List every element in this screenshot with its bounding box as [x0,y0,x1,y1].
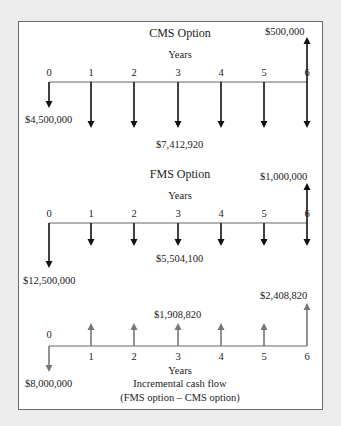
axis-label: Years [168,49,191,60]
year-label: 5 [261,67,266,78]
year-label: 4 [218,351,224,362]
amount-label: $1,000,000 [260,171,307,182]
arrow-up-icon [261,323,268,330]
arrow-down-icon [175,121,182,128]
amount-label: $4,500,000 [25,114,72,125]
year-label: 2 [131,351,136,362]
arrow-down-icon [88,239,95,246]
year-label: 5 [261,208,266,219]
amount-label: $12,500,000 [23,275,76,286]
arrow-up-icon [304,37,311,44]
arrow-up-icon [131,323,138,330]
amount-label: $8,000,000 [25,378,72,389]
amount-label: $500,000 [265,26,304,37]
year-label: 3 [175,351,180,362]
arrow-down-icon [304,121,311,128]
fms-diagram: 0123456FMS OptionYears$12,500,000$5,504,… [23,167,311,286]
amount-label: $5,504,100 [156,253,203,264]
arrow-up-icon [304,303,311,310]
cms-diagram: 0123456CMS OptionYears$4,500,000$7,412,9… [25,26,311,150]
amount-label: $2,408,820 [260,290,307,301]
arrow-down-icon [218,121,225,128]
arrow-down-icon [131,239,138,246]
diagram-subtitle: (FMS option – CMS option) [120,392,240,404]
amount-label: $1,908,820 [154,309,201,320]
axis-label: Years [168,190,191,201]
year-label: 4 [218,67,224,78]
year-label: 6 [304,351,309,362]
diagram-title: CMS Option [149,26,211,40]
year-label: 0 [46,67,51,78]
year-label: 0 [46,208,51,219]
year-label: 2 [131,67,136,78]
year-label: 3 [175,67,180,78]
arrow-up-icon [218,323,225,330]
year-label: 0 [46,329,51,340]
cash-flow-diagrams: 0123456CMS OptionYears$4,500,000$7,412,9… [0,0,341,426]
arrow-down-icon [304,239,311,246]
arrow-up-icon [304,183,311,190]
year-label: 1 [88,351,93,362]
diagram-title: Incremental cash flow [133,378,227,389]
incremental-diagram: 0123456YearsIncremental cash flow(FMS op… [25,290,311,404]
axis-label: Years [168,365,191,376]
year-label: 5 [261,351,266,362]
arrow-down-icon [88,121,95,128]
year-label: 2 [131,208,136,219]
year-label: 3 [175,208,180,219]
diagram-title: FMS Option [150,167,210,181]
arrow-down-icon [218,239,225,246]
arrow-up-icon [175,323,182,330]
year-label: 1 [88,67,93,78]
amount-label: $7,412,920 [156,139,203,150]
arrow-down-icon [175,239,182,246]
year-label: 1 [88,208,93,219]
arrow-down-icon [46,365,53,372]
arrow-down-icon [261,239,268,246]
arrow-up-icon [88,323,95,330]
year-label: 4 [218,208,224,219]
arrow-down-icon [131,121,138,128]
arrow-down-icon [261,121,268,128]
arrow-down-icon [46,261,53,268]
arrow-down-icon [46,101,53,108]
